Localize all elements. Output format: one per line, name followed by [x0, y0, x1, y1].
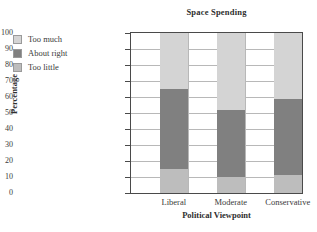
bar-segment-about-right — [274, 99, 303, 176]
y-axis-tick-mark — [125, 113, 130, 114]
legend-label-about-right: About right — [28, 48, 67, 58]
bar-segment-too-much — [217, 33, 246, 110]
y-axis-tick-label: 20 — [0, 157, 13, 165]
legend-swatch-too-much — [13, 35, 22, 44]
y-axis-tick-mark — [125, 33, 130, 34]
bar-segment-too-little — [274, 175, 303, 193]
plot-inner — [131, 33, 302, 193]
x-axis-label: Political Viewpoint — [130, 210, 303, 220]
y-axis-tick-label: 70 — [0, 77, 13, 85]
legend-item-about-right: About right — [13, 46, 105, 60]
y-axis-tick-mark — [125, 145, 130, 146]
legend-label-too-much: Too much — [28, 34, 62, 44]
plot-area — [130, 32, 303, 194]
bar-segment-too-little — [160, 169, 189, 193]
y-axis-tick-label: 0 — [0, 189, 13, 197]
y-axis-tick-label: 60 — [0, 93, 13, 101]
gridline-vertical — [188, 33, 189, 193]
y-axis-tick-mark — [125, 161, 130, 162]
y-axis-tick-label: 40 — [0, 125, 13, 133]
y-axis-tick-mark — [125, 177, 130, 178]
y-axis-tick-label: 30 — [0, 141, 13, 149]
y-axis-tick-label: 90 — [0, 45, 13, 53]
y-axis-tick-label: 50 — [0, 109, 13, 117]
y-axis-tick-mark — [125, 81, 130, 82]
bar-segment-about-right — [160, 89, 189, 169]
y-axis-tick-label: 80 — [0, 61, 13, 69]
chart-legend: Too much About right Too little — [13, 32, 105, 74]
bar-conservative — [274, 33, 303, 193]
gridline-vertical — [245, 33, 246, 193]
legend-item-too-little: Too little — [13, 60, 105, 74]
bar-liberal — [160, 33, 189, 193]
chart-title: Space Spending — [130, 7, 303, 17]
y-axis-tick-label: 10 — [0, 173, 13, 181]
y-axis-tick-label: 100 — [0, 29, 13, 37]
bar-moderate — [217, 33, 246, 193]
y-axis-tick-mark — [125, 49, 130, 50]
x-axis-tick-label-conservative: Conservative — [248, 197, 317, 207]
bar-segment-about-right — [217, 110, 246, 177]
legend-item-too-much: Too much — [13, 32, 105, 46]
y-axis-tick-mark — [125, 97, 130, 98]
y-axis-tick-mark — [125, 65, 130, 66]
chart-figure: Space Spending Too much About right Too … — [0, 0, 317, 232]
y-axis-tick-mark — [125, 129, 130, 130]
bar-segment-too-much — [274, 33, 303, 99]
bar-segment-too-little — [217, 177, 246, 193]
y-axis-tick-mark — [125, 193, 130, 194]
legend-label-too-little: Too little — [28, 62, 59, 72]
bar-segment-too-much — [160, 33, 189, 89]
